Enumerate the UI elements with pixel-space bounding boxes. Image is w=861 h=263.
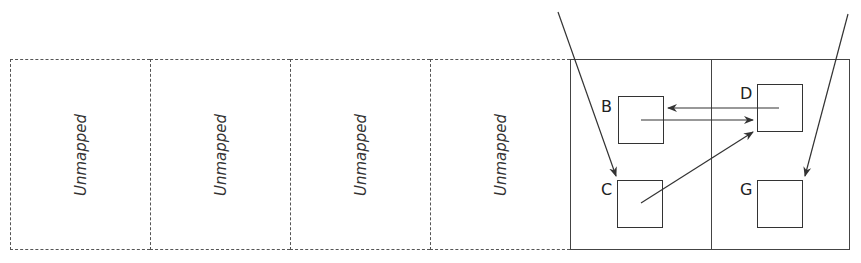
unmapped-page-4: Unmapped (430, 59, 570, 250)
mapped-page-divider (711, 60, 712, 249)
unmapped-page-2: Unmapped (150, 59, 290, 250)
node-d (757, 84, 803, 132)
node-g (757, 180, 803, 228)
node-c-label: C (601, 180, 612, 199)
node-d-label: D (740, 84, 752, 103)
mapped-region (570, 59, 850, 250)
unmapped-label: Unmapped (212, 113, 230, 195)
node-g-label: G (740, 180, 752, 199)
node-c (617, 180, 663, 228)
node-b (618, 96, 664, 144)
unmapped-page-3: Unmapped (290, 59, 430, 250)
unmapped-label: Unmapped (492, 113, 510, 195)
unmapped-label: Unmapped (352, 113, 370, 195)
unmapped-label: Unmapped (72, 113, 90, 195)
node-b-label: B (601, 97, 612, 116)
unmapped-page-1: Unmapped (10, 59, 150, 250)
